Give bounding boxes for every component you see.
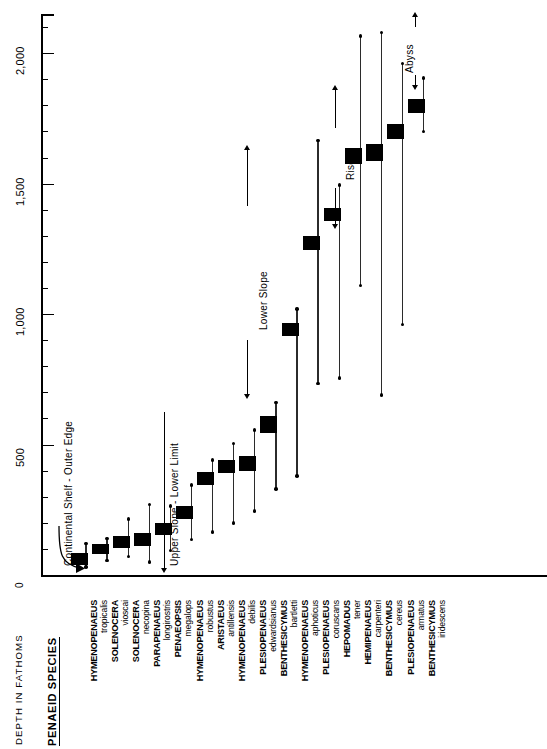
depth-range-line [233,443,234,523]
abundance-mode-bar [387,124,404,140]
annotation-label-rise: Rise [345,159,356,180]
lower-slope-arrow-shaft-lower [247,340,248,395]
abundance-mode-bar [303,236,320,250]
abundance-mode-bar [239,456,256,470]
species-label: HYMENOPENAEUSaphoticus [301,600,321,749]
depth-max-endpoint [422,76,425,79]
abundance-mode-bar [197,472,214,485]
species-genus: HEPOMADUS [343,600,353,749]
depth-range-line [254,430,255,511]
species-label: HYMENOPENAEUStropicalis [90,600,110,749]
species-genus: HYMENOPENAEUS [238,600,248,749]
depth-range-line [402,64,403,325]
continental-shelf-arrow-icon [52,524,96,576]
depth-min-endpoint [232,521,235,524]
rise-arrowhead-up-icon [332,85,338,90]
lower-slope-arrowhead-down-icon [244,394,250,399]
rise-arrow-shaft-upper [335,90,336,128]
species-epithet: bartletti [289,600,299,749]
depth-min-endpoint [295,474,298,477]
species-genus: PLESIOPENAEUS [259,600,269,749]
species-genus: PLESIOPENAEUS [407,600,417,749]
depth-min-endpoint [190,538,193,541]
species-epithet: cereus [395,600,405,749]
depth-min-endpoint [316,382,319,385]
depth-max-endpoint [380,31,383,34]
species-label: HYMENOPENAEUSrobustus [196,600,216,749]
abundance-mode-bar [324,208,341,221]
abundance-mode-bar [282,323,299,336]
species-label: BENTHESICYMUScereus [385,600,405,749]
depth-range-line [381,32,382,395]
upper-slope-arrow-shaft [164,412,165,569]
rise-arrowhead-down-icon [332,224,338,229]
species-label: PLESIOPENAEUSedwardsianus [259,600,279,749]
depth-max-endpoint [127,517,130,520]
species-label: PARAPENAEUSlongirostris [153,600,173,749]
depth-min-endpoint [274,487,277,490]
species-genus: BENTHESICYMUS [280,600,290,749]
abundance-mode-bar [218,460,235,473]
species-epithet: antillensis [226,600,236,749]
species-label: BENTHESICYMUSiridescens [428,600,448,749]
species-genus: HYMENOPENAEUS [196,600,206,749]
depth-min-endpoint [148,560,151,563]
rise-arrow-shaft-lower [335,188,336,225]
depth-min-endpoint [401,323,404,326]
abundance-mode-bar [260,416,277,433]
depth-min-endpoint [127,555,130,558]
species-label-column: HYMENOPENAEUStropicalisSOLENOCERAvioscai… [0,600,547,749]
depth-max-endpoint [274,401,277,404]
depth-min-endpoint [338,376,341,379]
species-label: PLESIOPENAEUSarmatus [407,600,427,749]
species-genus: ARISTAEUS [217,600,227,749]
species-label: HEMIPENAEUScarpenteri [364,600,384,749]
depth-max-endpoint [105,537,108,540]
depth-min-endpoint [380,393,383,396]
depth-max-endpoint [148,503,151,506]
abundance-mode-bar [408,99,425,113]
depth-min-endpoint [253,509,256,512]
abundance-mode-bar [134,533,151,546]
depth-max-endpoint [338,183,341,186]
depth-max-endpoint [295,307,298,310]
species-epithet: vioscai [121,600,131,749]
depth-max-endpoint [359,34,362,37]
species-label: PENAEOPSISmegalops [174,600,194,749]
annotation-label-lower-slope: Lower Slope [258,271,269,330]
depth-distribution-chart: 5001,0001,5002,000 DEPTH IN FATHOMS 0 PE… [0,0,547,749]
lower-slope-arrowhead-up-icon [244,145,250,150]
upper-slope-arrowhead-icon [161,568,167,573]
depth-max-endpoint [232,442,235,445]
species-epithet: tropicalis [100,600,110,749]
species-label: BENTHESICYMUSbartletti [280,600,300,749]
species-epithet: coruscans [332,600,342,749]
species-label: ARISTAEUSantillensis [217,600,237,749]
species-epithet: aphoticus [311,600,321,749]
abyss-arrow-shaft-upper [415,16,416,27]
species-epithet: longirostris [163,600,173,749]
species-label: SOLENOCERAnecopina [132,600,152,749]
depth-max-endpoint [211,458,214,461]
species-epithet: robustus [205,600,215,749]
depth-range-line [317,141,318,384]
species-epithet: necopina [142,600,152,749]
depth-min-endpoint [211,530,214,533]
abundance-mode-bar [366,144,383,161]
annotation-label-abyss: Abyss [404,44,415,73]
species-epithet: armatus [416,600,426,749]
depth-min-endpoint [105,559,108,562]
species-epithet: edwardsianus [268,600,278,749]
abyss-arrowhead-down-icon [412,85,418,90]
species-epithet: iridescens [437,600,447,749]
plot-area [0,0,547,600]
depth-max-endpoint [190,483,193,486]
depth-min-endpoint [359,284,362,287]
species-label: SOLENOCERAvioscai [111,600,131,749]
species-label: HEPOMADUStener [343,600,363,749]
species-epithet: tener [353,600,363,749]
species-epithet: debilis [247,600,257,749]
species-label: HYMENOPENAEUSdebilis [238,600,258,749]
abundance-mode-bar [113,536,130,548]
species-genus: BENTHESICYMUS [428,600,438,749]
